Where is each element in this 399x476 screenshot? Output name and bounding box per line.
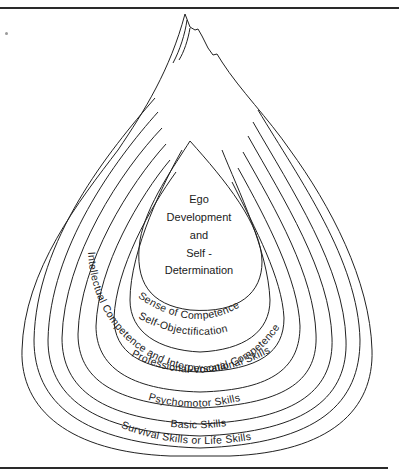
core-line-1: Ego bbox=[189, 193, 209, 205]
bottom-rule bbox=[0, 467, 388, 469]
layer-label-6: Basic Skills bbox=[170, 416, 227, 430]
core-line-4: Self - bbox=[186, 247, 212, 259]
layer-curve-5 bbox=[62, 128, 332, 424]
scan-speck bbox=[5, 32, 8, 35]
peak-ridge-line bbox=[173, 20, 187, 63]
core-teardrop-curve bbox=[139, 141, 262, 310]
top-rule bbox=[0, 7, 399, 9]
core-line-3: and bbox=[190, 229, 208, 241]
core-line-2: Development bbox=[167, 211, 232, 223]
skills-hierarchy-figure: Ego Development and Self - Determination… bbox=[0, 0, 399, 476]
core-line-5: Determination bbox=[165, 264, 233, 276]
teardrop-diagram: Ego Development and Self - Determination… bbox=[0, 0, 399, 476]
